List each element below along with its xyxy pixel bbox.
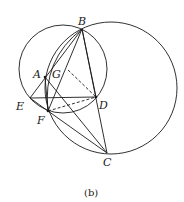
label-b: B [77, 15, 86, 28]
label-e: E [15, 100, 24, 113]
label-d: D [98, 99, 108, 112]
segment-fd-dashed [48, 97, 96, 111]
point-d [95, 96, 98, 99]
segment-gd-dashed [68, 70, 96, 97]
right-circle [45, 22, 177, 154]
point-f [47, 110, 50, 113]
label-f: F [36, 114, 45, 127]
segment-bd [82, 29, 96, 97]
label-a: A [32, 68, 41, 81]
segment-ed [30, 97, 96, 98]
geometry-diagram: B A G E D F C (b) [0, 0, 184, 202]
label-c: C [103, 156, 112, 169]
segment-be [30, 29, 82, 98]
figure-caption: (b) [84, 187, 98, 198]
point-a [44, 76, 47, 79]
label-g: G [52, 68, 61, 81]
segment-ef [30, 98, 48, 111]
